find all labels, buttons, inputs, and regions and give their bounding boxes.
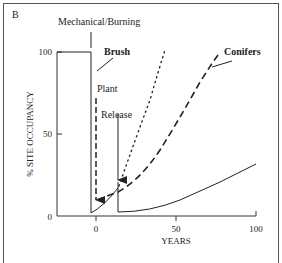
y-tick-0: 0 <box>48 212 53 222</box>
x-axis-label: YEARS <box>161 236 191 246</box>
brush-leader-line <box>97 58 113 71</box>
x-axis <box>57 211 256 221</box>
release-label: Release <box>101 109 133 120</box>
brush-label: Brush <box>104 46 131 57</box>
y-tick-100: 100 <box>39 47 53 57</box>
x-tick-100: 100 <box>249 224 263 234</box>
y-axis <box>57 52 62 216</box>
brush-series-after-release <box>118 164 256 212</box>
x-tick-50: 50 <box>172 224 182 234</box>
brush-series-before <box>57 52 118 213</box>
y-axis-label: % SITE OCCUPANCY <box>25 91 35 177</box>
treatment-label: Mechanical/Burning <box>58 16 140 27</box>
plant-label: Plant <box>97 83 118 94</box>
x-tick-0: 0 <box>94 224 99 234</box>
panel-label: B <box>12 9 19 20</box>
conifers-leader-line <box>212 61 232 67</box>
y-tick-50: 50 <box>43 129 53 139</box>
conifers-label: Conifers <box>224 46 261 57</box>
